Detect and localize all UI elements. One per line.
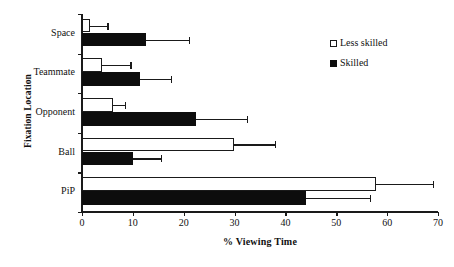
x-axis-tick <box>235 212 236 216</box>
filled-square-icon <box>330 60 337 67</box>
bar-less-skilled <box>82 177 376 191</box>
x-axis-tick-label: 10 <box>113 217 153 228</box>
x-axis-tick <box>285 212 286 216</box>
x-axis-line <box>81 211 438 213</box>
error-bar-line <box>113 105 126 106</box>
bar-skilled <box>82 33 146 47</box>
x-axis-tick-label: 60 <box>367 217 407 228</box>
y-axis-category-label: Teammate <box>0 67 75 77</box>
y-axis-tick <box>78 14 83 15</box>
chart-legend: Less skilledSkilled <box>330 38 388 78</box>
error-bar-cap <box>171 76 172 83</box>
error-bar-line <box>140 79 171 80</box>
y-axis-tick <box>78 212 83 213</box>
error-bar-cap <box>370 195 371 202</box>
legend-item-label: Less skilled <box>340 38 388 48</box>
bar-less-skilled <box>82 138 234 152</box>
y-axis-category-label: Ball <box>0 147 75 157</box>
legend-item-label: Skilled <box>340 58 368 68</box>
x-axis-tick <box>133 212 134 216</box>
y-axis-category-label: Opponent <box>0 107 75 117</box>
error-bar-line <box>133 158 161 159</box>
x-axis-title: % Viewing Time <box>82 236 438 247</box>
x-axis-tick <box>438 212 439 216</box>
y-axis-tick <box>78 172 83 173</box>
x-axis-tick-label: 20 <box>164 217 204 228</box>
x-axis-tick-label: 40 <box>265 217 305 228</box>
error-bar-cap <box>247 116 248 123</box>
error-bar-cap <box>107 23 108 30</box>
error-bar-line <box>234 144 276 145</box>
x-axis-tick <box>387 212 388 216</box>
error-bar-line <box>90 26 108 27</box>
error-bar-cap <box>189 37 190 44</box>
error-bar-line <box>306 198 370 199</box>
y-axis-category-label: Space <box>0 28 75 38</box>
bar-skilled <box>82 72 140 86</box>
bar-skilled <box>82 152 133 166</box>
error-bar-line <box>196 119 247 120</box>
x-axis-tick <box>82 212 83 216</box>
error-bar-line <box>146 40 189 41</box>
error-bar-cap <box>125 102 126 109</box>
y-axis-tick <box>78 54 83 55</box>
x-axis-tick-label: 0 <box>62 217 102 228</box>
y-axis-tick <box>78 93 83 94</box>
y-axis-tick <box>78 133 83 134</box>
x-axis-tick <box>336 212 337 216</box>
y-axis-category-label: PiP <box>0 186 75 196</box>
open-square-icon <box>330 40 337 47</box>
bar-skilled <box>82 191 306 205</box>
error-bar-cap <box>161 155 162 162</box>
error-bar-line <box>102 65 130 66</box>
error-bar-line <box>376 184 433 185</box>
error-bar-cap <box>433 181 434 188</box>
x-axis-tick-label: 30 <box>215 217 255 228</box>
bar-less-skilled <box>82 19 90 33</box>
bar-less-skilled <box>82 98 113 112</box>
x-axis-tick-label: 50 <box>316 217 356 228</box>
x-axis-tick <box>184 212 185 216</box>
bar-less-skilled <box>82 58 102 72</box>
legend-item: Skilled <box>330 58 388 68</box>
x-axis-tick-label: 70 <box>418 217 454 228</box>
bar-chart-figure: Fixation Location 010203040506070 SpaceT… <box>0 0 454 267</box>
bar-skilled <box>82 112 196 126</box>
error-bar-cap <box>130 62 131 69</box>
error-bar-cap <box>275 141 276 148</box>
legend-item: Less skilled <box>330 38 388 48</box>
